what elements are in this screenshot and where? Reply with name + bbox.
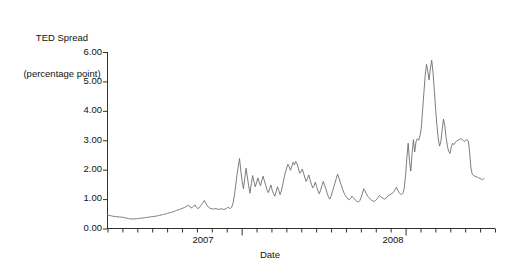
y-tick-label-6: 6.00 [56,46,102,57]
y-tick-label-4: 4.00 [56,104,102,115]
y-tick-label-1: 1.00 [56,192,102,203]
x-axis-title: Date [240,249,300,261]
chart-figure: TED Spread (percentage point) 6.00 5.00 … [0,0,508,275]
y-tick-label-5: 5.00 [56,75,102,86]
x-tick-label-2008: 2008 [373,234,413,245]
y-tick-label-0: 0.00 [56,222,102,233]
y-tick-label-3: 3.00 [56,134,102,145]
axes [107,52,495,229]
x-axis-ticks [108,229,496,236]
x-tick-label-2007: 2007 [183,234,223,245]
y-tick-label-2: 2.00 [56,163,102,174]
ted-spread-line [108,60,485,219]
y-axis-title-line-1: TED Spread [0,32,124,44]
